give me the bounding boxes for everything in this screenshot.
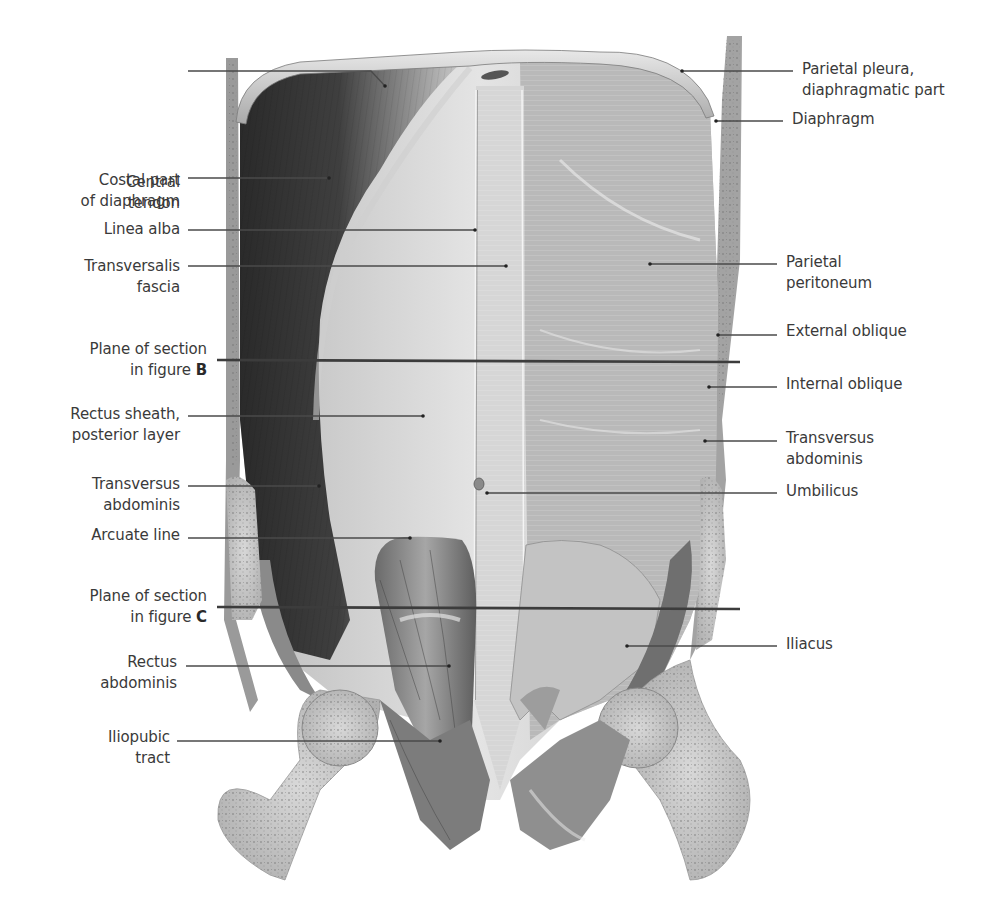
label-line: of diaphragm: [81, 191, 180, 212]
label-line: Arcuate line: [91, 525, 180, 546]
label-linea-alba: Linea alba: [104, 219, 180, 240]
linea-alba-leader-dot: [473, 228, 477, 232]
transversus-abdominis-right-leader-dot: [703, 439, 707, 443]
label-plane-of-section-c: Plane of sectionin figure C: [89, 586, 207, 628]
label-internal-oblique: Internal oblique: [786, 374, 902, 395]
transversalis-fascia-leader-dot: [504, 264, 508, 268]
label-diaphragm: Diaphragm: [792, 109, 875, 130]
anatomy-figure: CentraltendonCostal partof diaphragmLine…: [0, 0, 1003, 914]
label-rectus-abdominis: Rectusabdominis: [100, 652, 177, 694]
label-line: abdominis: [100, 673, 177, 694]
internal-oblique-leader-dot: [707, 385, 711, 389]
label-rectus-sheath-posterior-layer: Rectus sheath,posterior layer: [70, 404, 180, 446]
label-line: Umbilicus: [786, 481, 858, 502]
umbilicus-mark: [474, 478, 484, 490]
label-line: Rectus sheath,: [70, 404, 180, 425]
label-line: abdominis: [786, 449, 874, 470]
label-line: in figure C: [89, 607, 207, 628]
label-costal-part-of-diaphragm: Costal partof diaphragm: [81, 170, 180, 212]
transversus-abdominis-left-leader-dot: [317, 484, 321, 488]
label-umbilicus: Umbilicus: [786, 481, 858, 502]
label-plane-of-section-b: Plane of sectionin figure B: [89, 339, 207, 381]
iliacus-leader-dot: [625, 644, 629, 648]
costal-part-of-diaphragm-leader-dot: [327, 176, 331, 180]
label-line: Iliacus: [786, 634, 833, 655]
umbilicus-leader-dot: [485, 491, 489, 495]
label-iliacus: Iliacus: [786, 634, 833, 655]
figure-letter: C: [196, 608, 207, 626]
label-line: Internal oblique: [786, 374, 902, 395]
rectus-sheath-posterior-layer-leader-dot: [421, 414, 425, 418]
label-line: Costal part: [81, 170, 180, 191]
parietal-peritoneum-leader-dot: [648, 262, 652, 266]
label-transversus-abdominis-right: Transversusabdominis: [786, 428, 874, 470]
label-external-oblique: External oblique: [786, 321, 907, 342]
label-parietal-peritoneum: Parietalperitoneum: [786, 252, 872, 294]
label-line: Rectus: [100, 652, 177, 673]
parietal-pleura-diaphragmatic-part-leader-dot: [680, 69, 684, 73]
label-line: tract: [108, 748, 170, 769]
iliopubic-tract-leader-dot: [438, 739, 442, 743]
label-line: Linea alba: [104, 219, 180, 240]
label-line: abdominis: [92, 495, 180, 516]
label-line: Plane of section: [89, 586, 207, 607]
label-line: Diaphragm: [792, 109, 875, 130]
label-line: Parietal pleura,: [802, 59, 945, 80]
label-line: posterior layer: [70, 425, 180, 446]
arcuate-line-leader-dot: [408, 536, 412, 540]
label-line: diaphragmatic part: [802, 80, 945, 101]
label-parietal-pleura-diaphragmatic-part: Parietal pleura,diaphragmatic part: [802, 59, 945, 101]
label-line: Parietal: [786, 252, 872, 273]
label-line: Transversalis: [84, 256, 180, 277]
label-arcuate-line: Arcuate line: [91, 525, 180, 546]
label-line: Transversus: [92, 474, 180, 495]
rectus-abdominis-leader-dot: [447, 664, 451, 668]
label-line: Plane of section: [89, 339, 207, 360]
figure-letter: B: [196, 361, 207, 379]
external-oblique-leader-dot: [716, 333, 720, 337]
central-tendon-leader-dot: [383, 84, 387, 88]
label-line: Iliopubic: [108, 727, 170, 748]
label-line: Transversus: [786, 428, 874, 449]
label-line: External oblique: [786, 321, 907, 342]
label-line: peritoneum: [786, 273, 872, 294]
label-iliopubic-tract: Iliopubictract: [108, 727, 170, 769]
label-line: fascia: [84, 277, 180, 298]
label-transversus-abdominis-left: Transversusabdominis: [92, 474, 180, 516]
label-line: in figure B: [89, 360, 207, 381]
label-transversalis-fascia: Transversalisfascia: [84, 256, 180, 298]
diaphragm-leader-dot: [714, 119, 718, 123]
